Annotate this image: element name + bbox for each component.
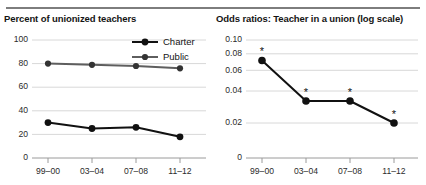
left-ytick-label-0: 0: [23, 152, 28, 162]
left-chart-svg: 100 80 60 40 20 0 99–00 03–04 07–08 1: [4, 24, 212, 174]
left-ytick-label-80: 80: [18, 58, 28, 68]
legend-entry-charter[interactable]: Charter: [132, 36, 195, 47]
left-xtick-label-0708: 07–08: [124, 166, 148, 174]
left-xtick-label-9900: 99–00: [36, 166, 60, 174]
right-ytick-label-008: 0.08: [225, 48, 242, 58]
right-x-tickmarks: [262, 158, 394, 163]
panel-percent-unionized: Percent of unionized teachers 100 80 60 …: [4, 13, 212, 181]
series-markers-odds-ratio: [258, 57, 398, 127]
left-ytick-label-40: 40: [18, 105, 28, 115]
right-ytick-label-006: 0.06: [225, 65, 242, 75]
left-ytick-label-60: 60: [18, 81, 28, 91]
panel-odds-ratios: Odds ratios: Teacher in a union (log sca…: [216, 13, 422, 181]
legend-entry-public[interactable]: Public: [132, 51, 189, 62]
right-panel-title: Odds ratios: Teacher in a union (log sca…: [216, 13, 422, 24]
figure-container: Percent of unionized teachers 100 80 60 …: [0, 0, 426, 185]
left-ytick-label-20: 20: [18, 129, 28, 139]
legend: Charter Public: [132, 36, 195, 62]
significance-stars: * * * *: [260, 45, 397, 120]
legend-label-charter: Charter: [163, 36, 195, 47]
right-xtick-label-0708: 07–08: [338, 166, 362, 174]
series-markers-charter: [45, 119, 184, 140]
right-plot-area: 0.10 0.08 0.06 0.04 0.02 0 99–00 03–04 0…: [216, 24, 422, 174]
right-ytick-label-002: 0.02: [225, 117, 242, 127]
right-chart-svg: 0.10 0.08 0.06 0.04 0.02 0 99–00 03–04 0…: [216, 24, 422, 174]
left-x-tickmarks: [48, 158, 180, 163]
right-xtick-label-0304: 03–04: [294, 166, 318, 174]
left-xtick-label-0304: 03–04: [80, 166, 104, 174]
significance-star-9900: *: [260, 45, 265, 57]
right-ytick-label-0: 0: [237, 152, 242, 162]
right-ytick-label-004: 0.04: [225, 85, 242, 95]
series-line-public: [48, 64, 180, 69]
right-ytick-label-010: 0.10: [225, 34, 242, 44]
left-xtick-label-1112: 11–12: [168, 166, 191, 174]
left-panel-title: Percent of unionized teachers: [4, 13, 212, 24]
legend-label-public: Public: [163, 51, 189, 62]
left-plot-area: 100 80 60 40 20 0 99–00 03–04 07–08 1: [4, 24, 212, 174]
significance-star-1112: *: [392, 108, 397, 120]
right-xtick-label-1112: 11–12: [382, 166, 405, 174]
significance-star-0304: *: [304, 86, 309, 98]
right-xtick-label-9900: 99–00: [250, 166, 274, 174]
significance-star-0708: *: [348, 86, 353, 98]
top-divider-rule: [6, 7, 420, 9]
left-ytick-label-100: 100: [14, 34, 29, 44]
